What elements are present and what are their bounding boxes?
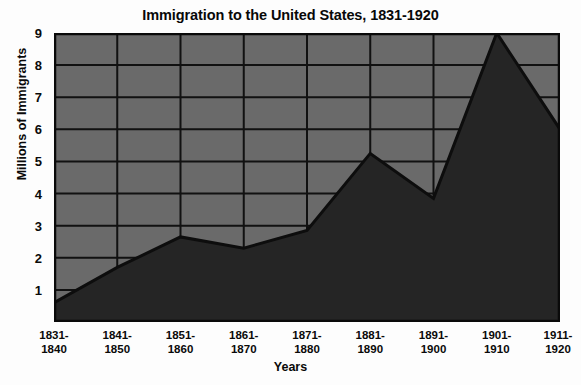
x-tick-line2: 1920 bbox=[523, 343, 581, 357]
y-tick-label-3: 3 bbox=[35, 219, 42, 232]
y-tick-label-8: 8 bbox=[35, 59, 42, 72]
immigration-area-chart: Immigration to the United States, 1831-1… bbox=[0, 0, 581, 385]
x-tick-line2: 1860 bbox=[146, 343, 216, 357]
y-tick-label-2: 2 bbox=[35, 251, 42, 264]
plot-area bbox=[54, 33, 560, 322]
y-axis-title: Millions of Immigrants bbox=[15, 29, 29, 199]
x-tick-line1: 1881- bbox=[335, 329, 405, 343]
x-tick-line2: 1840 bbox=[19, 343, 89, 357]
x-tick-line2: 1850 bbox=[82, 343, 152, 357]
x-tick-label-1871-1880: 1871-1880 bbox=[272, 329, 342, 356]
y-tick-label-9: 9 bbox=[35, 27, 42, 40]
x-tick-line2: 1870 bbox=[209, 343, 279, 357]
x-axis-title: Years bbox=[0, 360, 581, 374]
x-tick-label-1891-1900: 1891-1900 bbox=[399, 329, 469, 356]
y-tick-label-6: 6 bbox=[35, 123, 42, 136]
x-tick-label-1831-1840: 1831-1840 bbox=[19, 329, 89, 356]
chart-title: Immigration to the United States, 1831-1… bbox=[0, 7, 581, 23]
chart-plot-svg bbox=[54, 33, 560, 322]
x-tick-line2: 1910 bbox=[462, 343, 532, 357]
x-tick-line1: 1891- bbox=[399, 329, 469, 343]
x-tick-line2: 1880 bbox=[272, 343, 342, 357]
x-tick-label-1911-1920: 1911-1920 bbox=[523, 329, 581, 356]
y-tick-label-5: 5 bbox=[35, 155, 42, 168]
x-tick-label-1901-1910: 1901-1910 bbox=[462, 329, 532, 356]
x-tick-line1: 1871- bbox=[272, 329, 342, 343]
x-tick-line1: 1851- bbox=[146, 329, 216, 343]
x-tick-label-1841-1850: 1841-1850 bbox=[82, 329, 152, 356]
x-tick-line1: 1841- bbox=[82, 329, 152, 343]
x-tick-line2: 1890 bbox=[335, 343, 405, 357]
y-tick-label-7: 7 bbox=[35, 91, 42, 104]
x-tick-label-1881-1890: 1881-1890 bbox=[335, 329, 405, 356]
x-tick-label-1861-1870: 1861-1870 bbox=[209, 329, 279, 356]
x-tick-line2: 1900 bbox=[399, 343, 469, 357]
x-tick-line1: 1901- bbox=[462, 329, 532, 343]
y-tick-label-4: 4 bbox=[35, 187, 42, 200]
x-tick-label-1851-1860: 1851-1860 bbox=[146, 329, 216, 356]
y-tick-label-1: 1 bbox=[35, 283, 42, 296]
x-tick-line1: 1911- bbox=[523, 329, 581, 343]
x-tick-line1: 1861- bbox=[209, 329, 279, 343]
x-tick-line1: 1831- bbox=[19, 329, 89, 343]
